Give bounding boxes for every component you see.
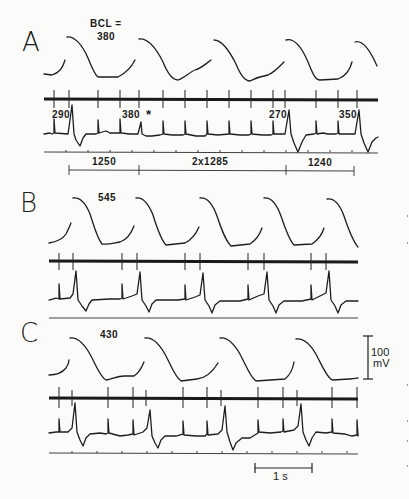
interval-2x1285: 2x1285	[192, 156, 228, 167]
ecg-annotation-350: 350	[339, 109, 357, 120]
time-axis-a	[44, 150, 378, 153]
time-axis-c	[49, 451, 358, 454]
panel-a: A BCL = 380 290 380 * 270	[22, 18, 378, 176]
panel-label-c: C	[20, 318, 38, 348]
ecg-trace-c	[49, 403, 358, 450]
bcl-value-c: 430	[100, 329, 118, 340]
panel-b: B 545	[20, 188, 358, 318]
bcl-value-b: 545	[98, 192, 116, 203]
time-scale-bar: 1 s	[255, 463, 312, 482]
action-potential-trace-c	[49, 338, 358, 381]
ecg-annotation-380: 380	[122, 109, 140, 120]
panel-label-b: B	[20, 188, 37, 218]
bcl-prefix-label: BCL =	[90, 18, 122, 29]
ecg-action-potential-figure: A BCL = 380 290 380 * 270	[0, 0, 409, 499]
action-potential-trace-b	[49, 198, 358, 247]
ecg-annotation-asterisk: *	[146, 107, 152, 122]
stimulus-line-a	[44, 99, 378, 100]
bcl-value-a: 380	[97, 31, 115, 42]
interval-1250: 1250	[92, 156, 116, 167]
voltage-scale-unit: mV	[373, 357, 390, 369]
ecg-annotation-270: 270	[269, 109, 287, 120]
scan-edge-artifacts	[407, 215, 408, 467]
panel-c: C 430	[20, 318, 358, 454]
panel-label-a: A	[22, 27, 40, 57]
stimulus-line-c	[49, 398, 358, 399]
voltage-scale-bar: 100 mV	[363, 336, 390, 379]
time-scale-label: 1 s	[273, 470, 288, 482]
ecg-trace-a	[44, 105, 378, 152]
action-potential-trace-a	[44, 37, 377, 81]
stimulus-line-b	[49, 261, 358, 262]
ecg-trace-b	[49, 271, 358, 313]
interval-1240: 1240	[308, 157, 332, 168]
ecg-annotation-290: 290	[52, 109, 70, 120]
